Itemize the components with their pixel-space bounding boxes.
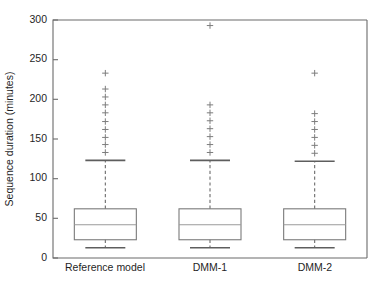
boxplot-group	[179, 22, 241, 247]
y-tick-label-100: 100	[29, 171, 47, 183]
y-axis-label: Sequence duration (minutes)	[3, 72, 15, 207]
boxplot-series-layer	[74, 22, 345, 247]
boxplot-figure: 0 50 100 150 200 250 300 Sequence durati…	[0, 0, 381, 289]
y-tick-label-50: 50	[35, 211, 47, 223]
y-tick-label-150: 150	[29, 132, 47, 144]
x-tick-label-dmm-2: DMM-2	[298, 261, 333, 273]
x-tick-label-reference-model: Reference model	[65, 261, 145, 273]
y-tick-label-300: 300	[29, 13, 47, 25]
y-tick-marks	[53, 20, 58, 258]
boxplot-group	[284, 70, 346, 248]
y-tick-labels: 0 50 100 150 200 250 300	[29, 13, 47, 263]
y-tick-label-0: 0	[41, 251, 47, 263]
boxplot-group	[74, 70, 136, 248]
x-tick-label-dmm-1: DMM-1	[193, 261, 228, 273]
boxplot-canvas: 0 50 100 150 200 250 300 Sequence durati…	[0, 0, 381, 289]
y-tick-label-200: 200	[29, 92, 47, 104]
x-tick-labels: Reference model DMM-1 DMM-2	[65, 261, 332, 273]
y-tick-label-250: 250	[29, 52, 47, 64]
